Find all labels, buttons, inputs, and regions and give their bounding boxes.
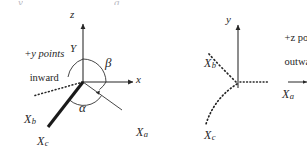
right-vector-label-xb: Xb [192, 44, 216, 83]
right-vector-label-xc: Xc [192, 116, 216, 147]
left-note-y-inward: +y points inward [3, 36, 75, 96]
left-xa-base: X [136, 125, 143, 139]
left-axis-label-z: z [70, 9, 74, 21]
left-note-line-1: +y points [24, 48, 64, 59]
left-angle-label-alpha: α [79, 101, 86, 115]
right-xa-subscript: a [290, 91, 294, 101]
left-axis-label-Y-capital: Y [70, 43, 76, 55]
left-xc-subscript: c [45, 138, 49, 147]
right-note-line-1: +z poi [285, 32, 308, 43]
left-note-line-2: inward [30, 72, 59, 83]
right-xb-subscript: b [212, 60, 216, 70]
left-vector-label-xa: Xa [124, 113, 148, 147]
right-xc-subscript: c [212, 132, 216, 142]
right-vector-label-xa: Xa [270, 75, 294, 114]
right-note-z-outward: +z poi outwa [274, 20, 307, 80]
right-xa-base: X [282, 87, 289, 101]
right-note-line-2: outwa [285, 56, 308, 67]
vector-frame-diagram: y a [0, 0, 307, 147]
left-vector-label-xc: Xc [25, 122, 49, 147]
left-axis-label-x: x [136, 74, 141, 86]
right-xb-base: X [204, 56, 211, 70]
right-xc-base: X [204, 128, 211, 142]
left-xa-subscript: a [144, 129, 148, 139]
right-axis-label-y: y [226, 14, 231, 26]
left-vector-xa [83, 82, 122, 110]
left-xc-base: X [37, 134, 44, 147]
left-angle-label-beta: β [105, 56, 111, 70]
